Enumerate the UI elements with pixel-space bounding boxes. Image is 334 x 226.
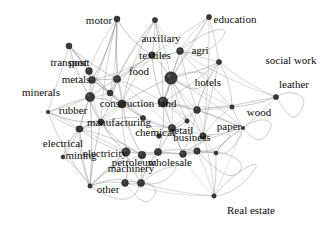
graph-node-highlight xyxy=(123,149,126,152)
graph-edge xyxy=(214,153,216,196)
graph-node-highlight xyxy=(139,181,141,183)
graph-node[interactable] xyxy=(61,155,65,159)
graph-node[interactable] xyxy=(157,134,162,139)
graph-node[interactable] xyxy=(149,52,155,58)
graph-edge xyxy=(101,122,142,155)
graph-node[interactable] xyxy=(114,16,120,22)
graph-edge xyxy=(69,46,117,79)
graph-node[interactable] xyxy=(122,180,129,187)
graph-node[interactable] xyxy=(98,119,104,125)
graph-edge xyxy=(143,118,159,136)
graph-node[interactable] xyxy=(154,148,161,155)
graph-node[interactable] xyxy=(194,107,201,114)
graph-node-highlight xyxy=(160,99,163,102)
graph-node[interactable] xyxy=(214,151,218,155)
graph-edge xyxy=(48,46,69,112)
graph-edge xyxy=(243,97,276,128)
graph-edge xyxy=(155,20,163,102)
graph-node[interactable] xyxy=(118,100,126,108)
graph-edge xyxy=(183,154,214,196)
graph-node-highlight xyxy=(167,74,171,78)
graph-node[interactable] xyxy=(85,92,94,101)
graph-node[interactable] xyxy=(137,179,144,186)
graph-self-loop xyxy=(214,164,256,196)
graph-node[interactable] xyxy=(46,110,50,114)
graph-edge xyxy=(69,46,92,80)
graph-edge xyxy=(197,151,214,196)
graph-node-highlight xyxy=(181,152,183,154)
graph-edge xyxy=(63,129,79,157)
graph-node-highlight xyxy=(178,49,180,51)
graph-node[interactable] xyxy=(230,105,234,109)
graph-self-loop xyxy=(197,151,241,176)
graph-edge xyxy=(80,97,90,129)
graph-edge xyxy=(122,102,163,106)
graph-node-highlight xyxy=(201,134,203,136)
graph-node-highlight xyxy=(90,78,92,80)
graph-node[interactable] xyxy=(165,72,177,84)
graph-node[interactable] xyxy=(152,17,157,22)
graph-edge xyxy=(101,19,117,122)
graph-node-highlight xyxy=(123,181,125,183)
graph-node[interactable] xyxy=(107,90,113,96)
graph-node[interactable] xyxy=(113,75,120,82)
graph-node[interactable] xyxy=(77,126,83,132)
graph-edge xyxy=(197,110,243,128)
graph-node-highlight xyxy=(87,94,90,97)
graph-edge xyxy=(48,97,90,112)
graph-node[interactable] xyxy=(273,94,278,99)
graph-node[interactable] xyxy=(241,126,245,130)
graph-node[interactable] xyxy=(212,194,216,198)
graph-edge xyxy=(79,129,126,152)
graph-node-highlight xyxy=(115,77,117,79)
graph-node[interactable] xyxy=(185,119,189,123)
graph-node-highlight xyxy=(170,126,172,128)
graph-edge xyxy=(232,107,243,128)
graph-node[interactable] xyxy=(194,148,200,154)
graph-edge xyxy=(187,121,197,151)
graph-node[interactable] xyxy=(89,77,96,84)
graph-edge xyxy=(79,97,90,129)
graph-node[interactable] xyxy=(180,151,187,158)
graph-node[interactable] xyxy=(206,14,211,19)
graph-edge xyxy=(197,62,219,110)
graph-node[interactable] xyxy=(88,184,92,188)
graph-edge xyxy=(122,55,152,104)
graph-self-loop xyxy=(90,179,139,199)
graph-edge xyxy=(152,20,155,55)
graph-self-loop xyxy=(276,93,304,117)
graph-edge xyxy=(155,20,171,78)
graph-edge xyxy=(92,55,152,80)
graph-node-highlight xyxy=(87,69,89,71)
graph-edge xyxy=(92,19,117,80)
graph-node-highlight xyxy=(140,153,142,155)
graph-edge xyxy=(117,19,152,55)
graph-node[interactable] xyxy=(158,97,168,107)
graph-node-highlight xyxy=(195,149,197,151)
graph-edge xyxy=(141,155,142,183)
graph-node-highlight xyxy=(120,101,122,103)
graph-canvas xyxy=(0,0,334,226)
graph-node[interactable] xyxy=(177,48,184,55)
graph-node[interactable] xyxy=(168,124,175,131)
graph-edge xyxy=(63,129,79,157)
graph-node-highlight xyxy=(150,53,152,55)
graph-node[interactable] xyxy=(66,43,72,49)
graph-node[interactable] xyxy=(140,115,145,120)
graph-edge xyxy=(172,128,183,154)
graph-edge xyxy=(48,97,90,112)
graph-node[interactable] xyxy=(138,151,146,159)
graph-edge xyxy=(80,129,90,186)
graph-edge xyxy=(110,55,152,93)
graph-edge xyxy=(197,97,276,110)
graph-edge xyxy=(48,112,101,122)
graph-edge xyxy=(89,19,117,71)
graph-node[interactable] xyxy=(200,133,206,139)
graph-edge xyxy=(125,152,128,183)
graph-edge xyxy=(172,128,203,136)
graph-node[interactable] xyxy=(216,59,221,64)
graph-node[interactable] xyxy=(86,68,93,75)
graph-edge xyxy=(171,78,232,107)
graph-edge xyxy=(80,129,142,155)
graph-node[interactable] xyxy=(122,148,130,156)
